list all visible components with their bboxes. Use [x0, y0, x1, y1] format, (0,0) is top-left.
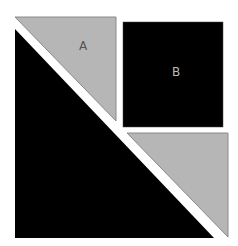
label-a: A	[79, 39, 88, 53]
label-b: B	[172, 65, 180, 79]
diagram-canvas: A B	[0, 0, 238, 246]
diagram-svg: A B	[0, 0, 238, 246]
